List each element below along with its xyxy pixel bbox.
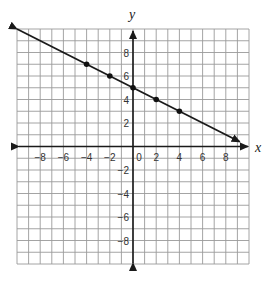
data-point — [153, 97, 159, 103]
x-tick-label: 2 — [153, 152, 159, 163]
y-axis-label: y — [127, 7, 136, 22]
y-tick-label: 2 — [123, 118, 129, 129]
x-tick-label: −8 — [34, 152, 46, 163]
data-point — [130, 85, 136, 91]
y-tick-label: −4 — [118, 189, 130, 200]
data-point — [177, 108, 183, 114]
x-tick-label: −2 — [104, 152, 116, 163]
y-tick-label: 6 — [123, 71, 129, 82]
x-tick-label: 6 — [200, 152, 206, 163]
y-tick-label: 4 — [123, 95, 129, 106]
y-tick-label: −2 — [118, 165, 130, 176]
y-tick-label: −8 — [118, 236, 130, 247]
x-tick-label: −6 — [58, 152, 70, 163]
x-tick-label: −4 — [81, 152, 93, 163]
y-tick-label: −6 — [118, 212, 130, 223]
x-tick-label: 0 — [136, 152, 142, 163]
data-point — [84, 61, 90, 67]
x-axis-label: x — [254, 140, 262, 155]
y-tick-label: 8 — [123, 48, 129, 59]
data-point — [107, 73, 113, 79]
coordinate-plane-chart: −8−6−4−2024688642−2−4−6−8 x y — [0, 0, 274, 286]
x-tick-label: 4 — [177, 152, 183, 163]
axes — [19, 31, 248, 263]
x-tick-label: 8 — [223, 152, 229, 163]
